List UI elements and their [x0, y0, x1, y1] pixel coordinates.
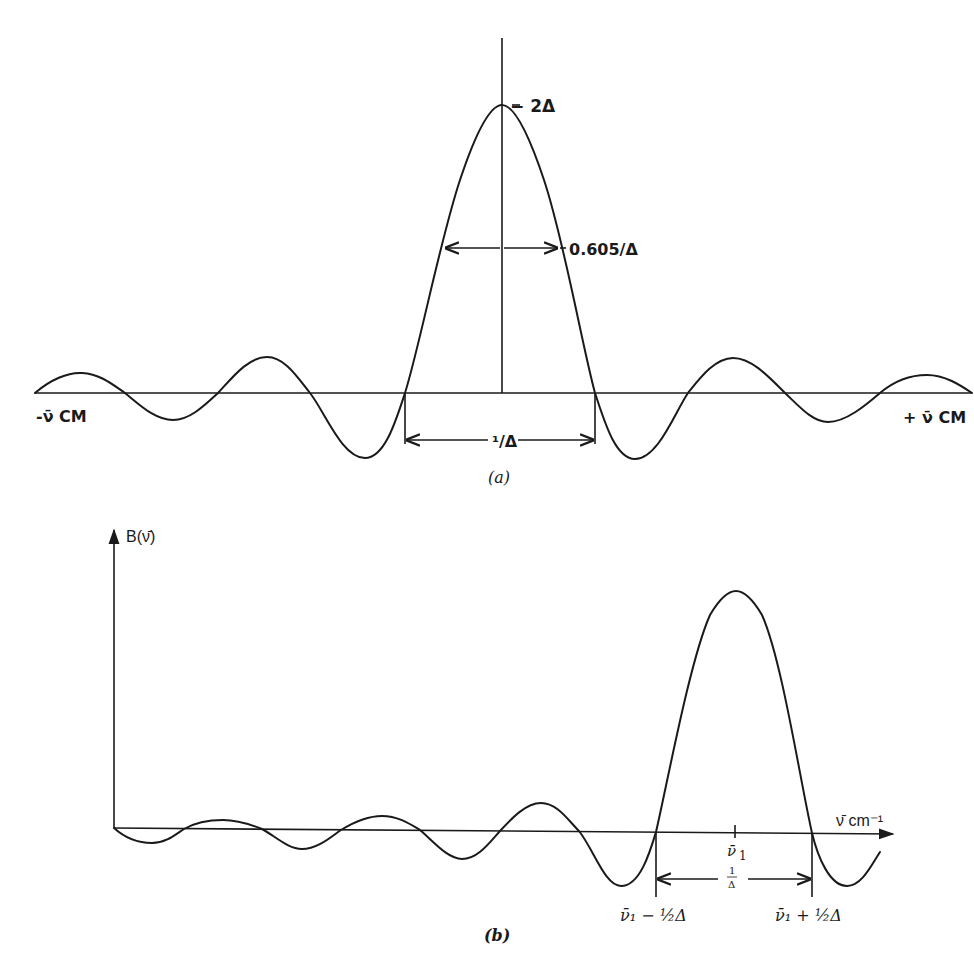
right-axis-label: + ν̄ CM: [903, 408, 966, 427]
width-numerator: 1: [729, 865, 735, 876]
y-axis-label: B(ν̄): [126, 528, 155, 545]
panel-b-caption: (b): [484, 926, 510, 945]
width-label: ¹/Δ: [492, 432, 518, 451]
width-denominator: Δ: [728, 879, 735, 890]
panel-b-x-axis: [114, 828, 893, 834]
peak-height-label: − 2Δ: [510, 96, 556, 116]
panel-b: B(ν̄) ν̄ cm⁻¹ ν̄ 1 1 Δ ν̄₁ − ½Δ ν̄₁ + ½Δ…: [114, 528, 893, 945]
right-bound-label: ν̄₁ + ½Δ: [775, 906, 842, 925]
center-label: ν̄: [727, 842, 736, 860]
x-axis-label: ν̄ cm⁻¹: [836, 812, 883, 829]
center-subscript: 1: [739, 849, 747, 863]
figure-canvas: − 2Δ 0.605/Δ ¹/Δ -ν̄ CM + ν̄ CM (a) B(ν̄…: [0, 0, 974, 966]
panel-a-caption: (a): [488, 468, 510, 487]
left-axis-label: -ν̄ CM: [36, 407, 87, 426]
panel-a-sinc-curve: [35, 105, 972, 459]
panel-a: − 2Δ 0.605/Δ ¹/Δ -ν̄ CM + ν̄ CM (a): [35, 38, 972, 487]
left-bound-label: ν̄₁ − ½Δ: [620, 906, 687, 925]
fwhm-label: 0.605/Δ: [569, 240, 638, 259]
panel-b-spectrum-curve: [114, 591, 880, 886]
